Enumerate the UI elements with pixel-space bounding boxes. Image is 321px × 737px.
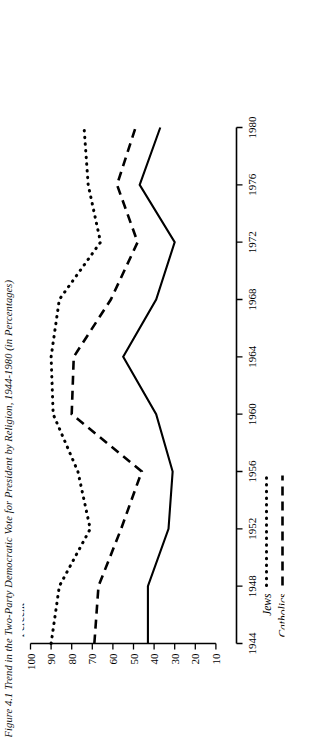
y-axis-tick-label: 80	[65, 653, 77, 665]
y-axis-tick-label: 40	[148, 653, 160, 665]
x-axis-tick-label: 1960	[245, 402, 257, 425]
chart-plot-area: 100908070605040302010Percent194419481952…	[22, 114, 284, 699]
x-axis-tick-label: 1980	[245, 116, 257, 139]
x-axis-tick-label: 1976	[245, 173, 257, 196]
line-chart-svg: 100908070605040302010Percent194419481952…	[22, 114, 284, 699]
x-axis-tick-label: 1944	[245, 632, 257, 655]
y-axis-tick-label: 100	[24, 653, 36, 670]
y-axis-tick-label: 20	[189, 653, 201, 665]
y-axis-tick-label: 60	[106, 653, 118, 665]
figure: Figure 4.1 Trend in the Two-Party Democr…	[0, 0, 321, 737]
y-axis-tick-label: 50	[127, 653, 139, 665]
y-axis-tick-label: 10	[209, 653, 221, 665]
chart-axes: 100908070605040302010Percent194419481952…	[22, 116, 257, 670]
x-axis-tick-label: 1972	[245, 231, 257, 253]
series-line-protestants	[123, 127, 175, 643]
series-line-catholics	[71, 127, 141, 643]
x-axis-tick-label: 1956	[245, 460, 257, 483]
y-axis-tick-label: 30	[168, 653, 180, 665]
series-line-jews	[51, 127, 100, 643]
figure-title: Figure 4.1 Trend in the Two-Party Democr…	[2, 0, 13, 737]
x-axis-tick-label: 1964	[245, 345, 257, 368]
legend-label-catholics: Catholics	[276, 592, 284, 637]
chart-legend: JewsCatholicsProtestants	[260, 475, 284, 646]
y-axis-title: Percent	[22, 602, 25, 637]
chart-series-layer	[51, 127, 175, 643]
y-axis-tick-label: 70	[86, 653, 98, 665]
x-axis-tick-label: 1948	[245, 574, 257, 597]
x-axis-tick-label: 1952	[245, 517, 257, 539]
legend-label-jews: Jews	[260, 592, 272, 615]
rotated-figure-wrapper: Figure 4.1 Trend in the Two-Party Democr…	[0, 0, 321, 737]
x-axis-tick-label: 1968	[245, 288, 257, 311]
y-axis-tick-label: 90	[45, 653, 57, 665]
